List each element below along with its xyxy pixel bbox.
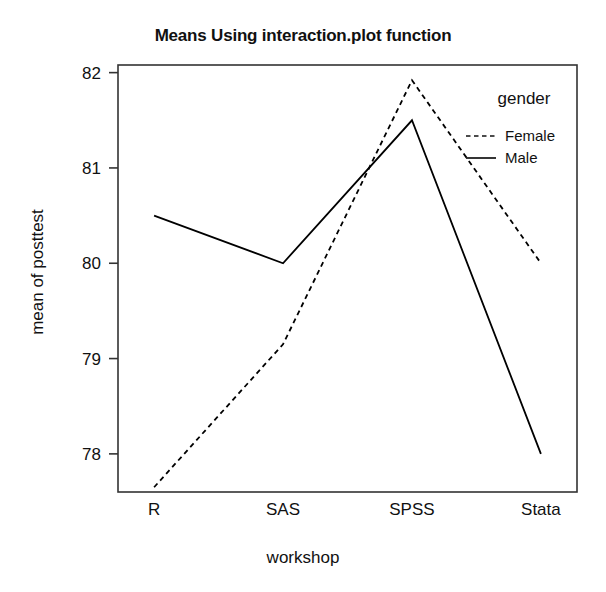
y-tick-label: 79: [82, 350, 101, 369]
x-tick-label: R: [148, 500, 160, 519]
data-series-group: [154, 80, 541, 487]
series-line-male: [154, 120, 541, 454]
x-axis-ticks: RSASSPSSStata: [148, 500, 561, 519]
chart-figure: Means Using interaction.plot function me…: [0, 0, 606, 592]
plot-area: 7879808182 RSASSPSSStata gender Female M…: [0, 0, 606, 592]
y-tick-label: 80: [82, 254, 101, 273]
y-axis-ticks: 7879808182: [82, 64, 118, 464]
legend-label-male: Male: [505, 149, 538, 166]
y-tick-label: 81: [82, 159, 101, 178]
y-tick-label: 78: [82, 445, 101, 464]
y-tick-label: 82: [82, 64, 101, 83]
x-tick-label: SAS: [266, 500, 300, 519]
x-tick-label: Stata: [521, 500, 561, 519]
series-line-female: [154, 80, 541, 487]
legend-label-female: Female: [505, 127, 555, 144]
legend-title: gender: [498, 89, 551, 108]
chart-legend: gender Female Male: [466, 89, 555, 166]
x-tick-label: SPSS: [389, 500, 434, 519]
